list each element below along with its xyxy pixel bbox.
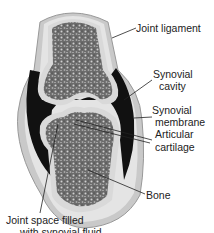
label-joint-ligament: Joint ligament xyxy=(136,22,201,34)
label-joint-space-line2: with synovial fluid xyxy=(20,226,102,233)
label-synovial-membrane-line2: membrane xyxy=(155,116,205,128)
label-synovial-membrane-line1: Synovial xyxy=(152,104,192,116)
label-articular-cartilage-line1: Articular xyxy=(155,128,194,140)
label-synovial-cavity-line2: cavity xyxy=(159,80,186,92)
label-articular-cartilage-line2: cartilage xyxy=(155,141,195,153)
synovial-joint-diagram: Joint ligament Synovial cavity Synovial … xyxy=(0,0,214,233)
label-joint-space-line1: Joint space filled xyxy=(6,214,84,226)
label-synovial-cavity-line1: Synovial xyxy=(153,68,193,80)
label-bone: Bone xyxy=(146,189,171,201)
